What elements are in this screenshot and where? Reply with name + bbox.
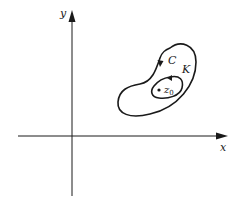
x-axis: x	[18, 133, 228, 155]
contour-c: C	[118, 44, 196, 116]
x-axis-arrow-icon	[216, 133, 228, 140]
point-z0: z0	[157, 84, 173, 97]
point-z0-label: z0	[163, 84, 174, 97]
x-axis-label: x	[220, 141, 227, 154]
y-axis: y	[59, 7, 76, 196]
y-axis-label: y	[59, 7, 67, 20]
point-z0-label-sub: 0	[169, 89, 173, 97]
contour-k-arrow-icon	[167, 75, 172, 81]
contour-k-label: K	[181, 63, 191, 76]
contour-diagram: x y C K z0	[0, 0, 240, 210]
y-axis-arrow-icon	[69, 10, 76, 22]
contour-c-label: C	[168, 54, 177, 67]
